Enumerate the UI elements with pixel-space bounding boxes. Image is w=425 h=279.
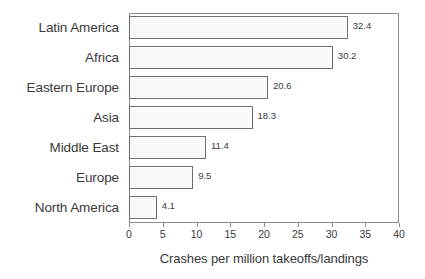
bars-layer: 32.430.220.618.311.49.54.1: [129, 13, 399, 223]
x-tick-label: 15: [224, 227, 236, 241]
category-axis-labels: Latin AmericaAfricaEastern EuropeAsiaMid…: [0, 13, 124, 223]
x-tick-label: 0: [126, 227, 132, 241]
bar-value-label: 11.4: [211, 139, 229, 153]
bar-row: 32.4: [129, 13, 399, 43]
bar-chart: Latin AmericaAfricaEastern EuropeAsiaMid…: [0, 0, 425, 279]
category-label: Latin America: [0, 13, 124, 43]
bar-row: 4.1: [129, 193, 399, 223]
bar[interactable]: [129, 166, 193, 189]
x-axis-title: Crashes per million takeoffs/landings: [129, 251, 399, 266]
bar-value-label: 18.3: [258, 109, 277, 123]
x-tick-label: 35: [359, 227, 371, 241]
category-label: Africa: [0, 43, 124, 73]
x-axis: 0510152025303540: [129, 223, 399, 243]
bar[interactable]: [129, 106, 253, 129]
bar-value-label: 9.5: [198, 169, 211, 183]
bar-row: 18.3: [129, 103, 399, 133]
bar-row: 20.6: [129, 73, 399, 103]
x-tick-label: 20: [258, 227, 270, 241]
x-tick-label: 5: [160, 227, 166, 241]
bar-value-label: 30.2: [338, 49, 357, 63]
bar[interactable]: [129, 46, 333, 69]
x-tick-label: 30: [326, 227, 338, 241]
bar-row: 11.4: [129, 133, 399, 163]
bar[interactable]: [129, 76, 268, 99]
bar[interactable]: [129, 136, 206, 159]
x-tick-label: 25: [292, 227, 304, 241]
bar-row: 9.5: [129, 163, 399, 193]
category-label: Middle East: [0, 133, 124, 163]
bar[interactable]: [129, 16, 348, 39]
bar-value-label: 32.4: [353, 19, 372, 33]
category-label: Eastern Europe: [0, 73, 124, 103]
bar-value-label: 20.6: [273, 79, 292, 93]
category-label: North America: [0, 193, 124, 223]
x-tick-label: 40: [393, 227, 405, 241]
bar-value-label: 4.1: [162, 199, 175, 213]
category-label: Asia: [0, 103, 124, 133]
category-label: Europe: [0, 163, 124, 193]
bar[interactable]: [129, 196, 157, 219]
bar-row: 30.2: [129, 43, 399, 73]
x-tick-label: 10: [191, 227, 203, 241]
